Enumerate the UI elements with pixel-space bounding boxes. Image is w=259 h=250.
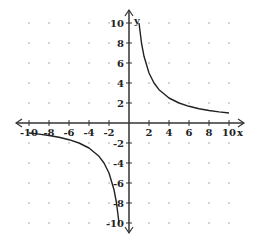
grid-dot xyxy=(188,62,189,63)
grid-dot xyxy=(228,42,229,43)
grid-dot xyxy=(208,142,209,143)
grid-dot xyxy=(188,82,189,83)
grid-dot xyxy=(68,202,69,203)
grid-dot xyxy=(148,162,149,163)
grid-dot xyxy=(28,22,29,23)
grid-dot xyxy=(228,62,229,63)
grid-dot xyxy=(48,142,49,143)
x-tick-label: -6 xyxy=(63,127,74,138)
y-tick-label: -2 xyxy=(113,138,124,149)
grid-dot xyxy=(228,142,229,143)
grid-dot xyxy=(108,162,109,163)
grid-dot xyxy=(68,102,69,103)
grid-dot xyxy=(48,202,49,203)
grid-dot xyxy=(88,202,89,203)
grid-dot xyxy=(28,182,29,183)
grid-dot xyxy=(228,22,229,23)
grid-dot xyxy=(68,162,69,163)
grid-dot xyxy=(28,222,29,223)
grid-dot xyxy=(228,82,229,83)
grid-dot xyxy=(48,22,49,23)
grid-dot xyxy=(108,182,109,183)
grid-dot xyxy=(148,82,149,83)
grid-dot xyxy=(68,42,69,43)
y-tick-label: -10 xyxy=(106,218,124,229)
grid-dot xyxy=(148,202,149,203)
grid-dot xyxy=(68,182,69,183)
curve-branch xyxy=(139,23,229,113)
grid-dot xyxy=(108,102,109,103)
grid-dot xyxy=(68,82,69,83)
y-tick-label: 6 xyxy=(117,58,124,69)
grid-dot xyxy=(48,162,49,163)
grid-dot xyxy=(148,22,149,23)
grid-dot xyxy=(48,42,49,43)
grid-dot xyxy=(208,22,209,23)
grid-dot xyxy=(208,182,209,183)
grid-dot xyxy=(188,162,189,163)
grid-dot xyxy=(88,162,89,163)
grid-dot xyxy=(48,82,49,83)
grid-dot xyxy=(188,142,189,143)
grid-dot xyxy=(88,42,89,43)
grid-dot xyxy=(188,102,189,103)
grid-dot xyxy=(88,22,89,23)
grid-dot xyxy=(208,62,209,63)
grid-dot xyxy=(168,42,169,43)
grid-dot xyxy=(108,42,109,43)
grid-dot xyxy=(68,62,69,63)
grid-dot xyxy=(28,102,29,103)
grid-dot xyxy=(88,182,89,183)
grid-dot xyxy=(168,162,169,163)
x-axis-label: x xyxy=(237,127,244,138)
grid-dot xyxy=(28,42,29,43)
grid-dot xyxy=(168,182,169,183)
x-tick-label: 2 xyxy=(146,127,153,138)
x-tick-label: 4 xyxy=(166,127,173,138)
grid-dot xyxy=(28,82,29,83)
x-tick-label: -10 xyxy=(20,127,38,138)
hyperbola-graph: -10-8-6-4-2246810108642-2-4-6-8-10 x y xyxy=(0,0,259,250)
grid-dot xyxy=(148,222,149,223)
grid-dot xyxy=(48,62,49,63)
grid-dot xyxy=(228,222,229,223)
grid-dot xyxy=(168,102,169,103)
grid-dot xyxy=(168,82,169,83)
grid-dot xyxy=(28,62,29,63)
grid-dot xyxy=(148,102,149,103)
grid-dot xyxy=(208,202,209,203)
grid-dot xyxy=(88,62,89,63)
y-tick-label: -6 xyxy=(113,178,124,189)
grid-dot xyxy=(208,82,209,83)
grid-dot xyxy=(168,22,169,23)
grid-dot xyxy=(28,162,29,163)
grid-dot xyxy=(168,142,169,143)
grid-dot xyxy=(228,182,229,183)
grid-dot xyxy=(88,82,89,83)
x-tick-label: 6 xyxy=(186,127,193,138)
grid-dot xyxy=(48,102,49,103)
grid-dot xyxy=(148,142,149,143)
x-tick-label: -4 xyxy=(83,127,94,138)
grid-dot xyxy=(228,102,229,103)
grid-dot xyxy=(108,142,109,143)
grid-dot xyxy=(28,142,29,143)
y-tick-label: 4 xyxy=(117,78,124,89)
x-tick-label: 10 xyxy=(222,127,236,138)
grid-dot xyxy=(88,142,89,143)
grid-dot xyxy=(208,102,209,103)
grid-dot xyxy=(188,42,189,43)
grid-dot xyxy=(208,222,209,223)
grid-dot xyxy=(48,182,49,183)
curve-branch xyxy=(29,133,119,223)
grid-dot xyxy=(148,182,149,183)
grid-dot xyxy=(148,42,149,43)
grid-dot xyxy=(228,162,229,163)
x-tick-label: -2 xyxy=(103,127,114,138)
grid-dot xyxy=(148,62,149,63)
grid-dot xyxy=(168,222,169,223)
grid-dot xyxy=(188,202,189,203)
grid-dot xyxy=(68,22,69,23)
grid-dot xyxy=(208,162,209,163)
grid-dot xyxy=(108,202,109,203)
